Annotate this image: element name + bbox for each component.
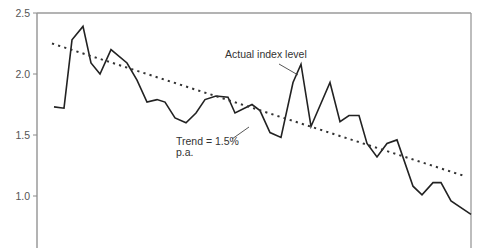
- line-chart: 2.52.01.51.0 Actual index levelTrend = 1…: [0, 0, 494, 248]
- y-tick-label: 1.0: [15, 190, 30, 202]
- annotation-label: Actual index level: [225, 48, 307, 60]
- y-tick-label: 1.5: [15, 129, 30, 141]
- annotation-leader-line: [232, 127, 249, 139]
- annotation-leader-line: [279, 64, 298, 75]
- annotation-label: p.a.: [176, 146, 194, 158]
- annotations: Actual index levelTrend = 1.5%p.a.: [176, 48, 307, 158]
- y-tick-label: 2.0: [15, 68, 30, 80]
- y-axis-ticks: 2.52.01.51.0: [15, 7, 37, 202]
- y-tick-label: 2.5: [15, 7, 30, 19]
